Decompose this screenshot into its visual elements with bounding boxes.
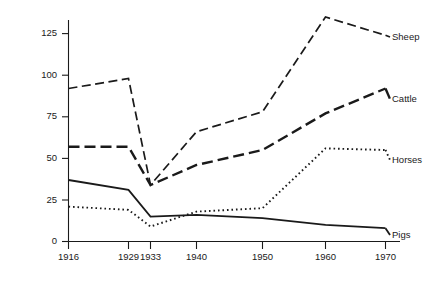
y-tick-label-25: 25 [46,194,57,205]
x-tick-label-1933: 1933 [140,251,161,262]
series-label-pigs: Pigs [392,229,411,240]
series-leaders-group [386,35,391,235]
series-labels-group: Sheep Cattle Horses Pigs [392,31,422,240]
x-tick-label-1950: 1950 [252,251,273,262]
data-series-group [69,17,386,228]
x-tick-label-1970: 1970 [375,251,396,262]
x-tick-label-1929: 1929 [118,251,139,262]
series-label-cattle: Cattle [392,93,417,104]
series-leader-pigs [386,228,391,235]
livestock-line-chart: 0 25 50 75 100 125 1916 1929 1933 1940 1… [0,0,444,287]
x-tick-label-1916: 1916 [58,251,79,262]
series-leader-horses [386,150,391,160]
series-line-cattle [69,89,386,186]
series-label-sheep: Sheep [392,31,419,42]
series-leader-cattle [386,89,391,100]
x-tick-label-1960: 1960 [315,251,336,262]
y-tick-marks [62,34,69,242]
x-tick-label-1940: 1940 [186,251,207,262]
chart-canvas: 0 25 50 75 100 125 1916 1929 1933 1940 1… [0,0,444,287]
y-tick-label-100: 100 [41,69,57,80]
series-leader-sheep [386,35,391,37]
x-tick-labels: 1916 1929 1933 1940 1950 1960 1970 [58,251,396,262]
y-tick-labels: 0 25 50 75 100 125 [41,27,57,246]
x-tick-marks [69,242,386,250]
series-line-sheep [69,17,386,185]
y-tick-label-50: 50 [46,152,57,163]
series-label-horses: Horses [392,154,422,165]
series-line-pigs [69,180,386,228]
y-tick-label-75: 75 [46,110,57,121]
y-tick-label-125: 125 [41,27,57,38]
axes-group [69,20,401,242]
y-tick-label-0: 0 [52,235,57,246]
